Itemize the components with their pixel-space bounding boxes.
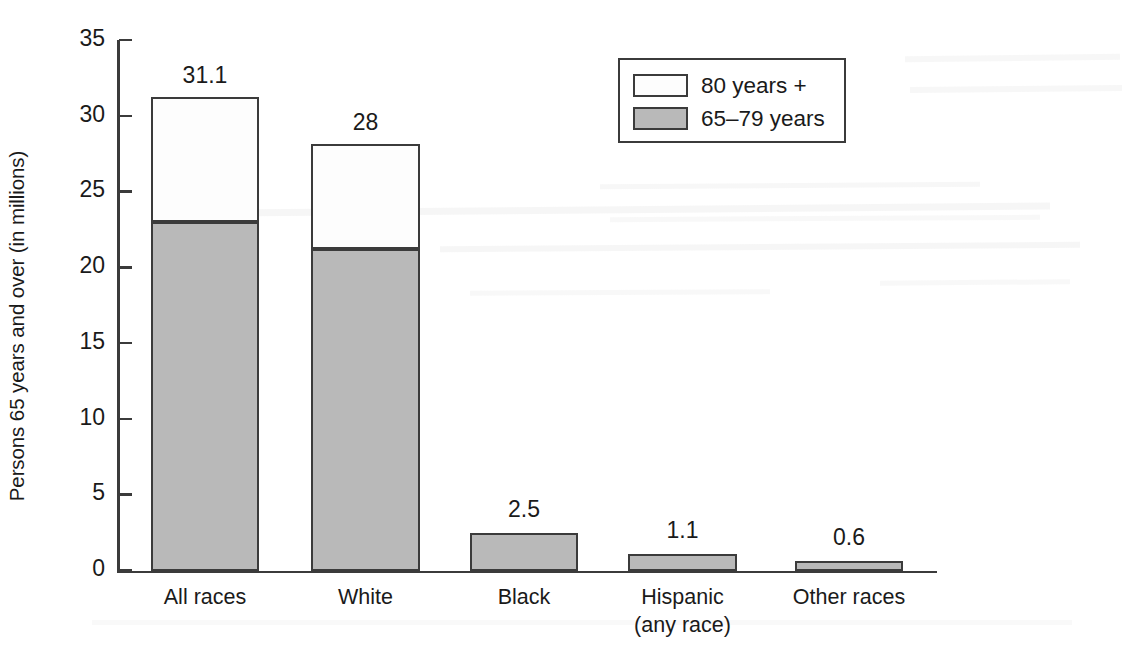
- legend-item-80-years-plus: 80 years +: [633, 69, 844, 102]
- bar: 1.1: [628, 554, 737, 571]
- bar-value-label: 0.6: [833, 524, 865, 551]
- y-tick: 30: [119, 115, 132, 118]
- y-tick: 0: [119, 569, 132, 572]
- chart-figure: Persons 65 years and over (in millions) …: [0, 0, 1127, 652]
- category-label: All races: [164, 583, 246, 611]
- bar-segment-65-79-years: [151, 222, 259, 571]
- category-label: White: [338, 583, 393, 611]
- bar-value-label: 31.1: [183, 62, 228, 89]
- y-tick-label: 10: [79, 404, 105, 431]
- y-axis-label: Persons 65 years and over (in millions): [0, 0, 34, 652]
- bar-segment-65-79-years: [795, 561, 903, 570]
- bar-value-label: 2.5: [508, 496, 540, 523]
- x-axis-line: [117, 571, 937, 574]
- category-label: Black: [498, 583, 551, 611]
- y-tick: 10: [119, 418, 132, 421]
- bar-value-label: 1.1: [667, 517, 699, 544]
- y-tick: 5: [119, 493, 132, 496]
- chart-legend: 80 years + 65–79 years: [618, 58, 846, 143]
- y-tick-label: 15: [79, 328, 105, 355]
- y-tick-label: 20: [79, 252, 105, 279]
- y-tick: 20: [119, 266, 132, 269]
- legend-label-80-years-plus: 80 years +: [701, 73, 807, 99]
- bar-segment-80-years-plus: [311, 144, 420, 249]
- bar-value-label: 28: [353, 109, 379, 136]
- y-tick-label: 5: [92, 480, 105, 507]
- y-tick: 25: [119, 190, 132, 193]
- y-tick: 15: [119, 342, 132, 345]
- bar-segment-65-79-years: [628, 554, 737, 571]
- bar-segment-65-79-years: [470, 533, 578, 571]
- bar: 31.1: [151, 99, 259, 570]
- legend-item-65-79-years: 65–79 years: [633, 102, 844, 135]
- y-tick-label: 35: [79, 25, 105, 52]
- scan-artifact: [92, 620, 1072, 625]
- bar: 2.5: [470, 533, 578, 571]
- bar: 0.6: [795, 561, 903, 570]
- category-label: Other races: [793, 583, 905, 611]
- legend-label-65-79-years: 65–79 years: [701, 106, 825, 132]
- bar-segment-80-years-plus: [151, 97, 259, 222]
- y-tick-label: 0: [92, 555, 105, 582]
- bar: 28: [311, 146, 420, 570]
- scan-artifact: [905, 54, 1120, 63]
- category-label: Hispanic(any race): [634, 583, 731, 640]
- bar-segment-65-79-years: [311, 249, 420, 570]
- y-tick: 35: [119, 39, 132, 42]
- legend-swatch-80-years-plus: [633, 74, 688, 97]
- legend-swatch-65-79-years: [633, 107, 688, 130]
- y-tick-label: 25: [79, 177, 105, 204]
- scan-artifact: [910, 85, 1122, 93]
- y-tick-label: 30: [79, 101, 105, 128]
